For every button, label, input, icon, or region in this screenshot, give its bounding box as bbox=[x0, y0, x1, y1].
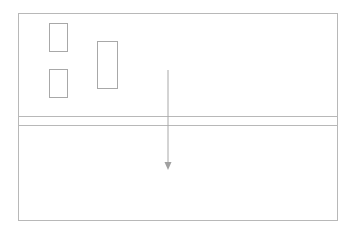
arrow-layer bbox=[0, 0, 355, 231]
arrow-down-icon bbox=[165, 162, 172, 170]
